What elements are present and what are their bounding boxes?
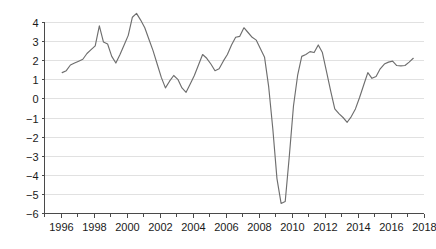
x-tick-label-2004: 2004 [181,221,205,233]
line-chart: 43210−1−2−3−4−5−6 1996199820002002200420… [0,0,436,249]
x-tick-label-2014: 2014 [346,221,370,233]
y-axis: 43210−1−2−3−4−5−6 [26,17,45,220]
x-tick-label-2012: 2012 [313,221,337,233]
x-tick-label-1996: 1996 [49,221,73,233]
x-axis: 1996199820002002200420062008201020122014… [44,214,436,233]
x-tick-label-2010: 2010 [280,221,304,233]
y-tick-label-0: 0 [32,93,38,105]
series-line-1 [62,13,413,203]
gridlines [44,23,424,214]
y-tick-label--5: −5 [26,189,39,201]
y-tick-label--4: −4 [26,170,39,182]
x-tick-label-2016: 2016 [379,221,403,233]
y-tick-label--1: −1 [26,113,39,125]
y-tick-label-4: 4 [32,17,38,29]
chart-canvas: 43210−1−2−3−4−5−6 1996199820002002200420… [0,0,436,249]
y-tick-label--2: −2 [26,132,39,144]
x-tick-label-2018: 2018 [412,221,436,233]
x-tick-label-2006: 2006 [214,221,238,233]
y-tick-label-3: 3 [32,36,38,48]
x-tick-label-1998: 1998 [82,221,106,233]
y-tick-label--6: −6 [26,208,39,220]
x-tick-label-2008: 2008 [247,221,271,233]
data-series [62,13,413,203]
x-tick-label-2000: 2000 [115,221,139,233]
y-tick-label-2: 2 [32,55,38,67]
y-tick-label--3: −3 [26,151,39,163]
x-tick-label-2002: 2002 [148,221,172,233]
y-tick-label-1: 1 [32,74,38,86]
